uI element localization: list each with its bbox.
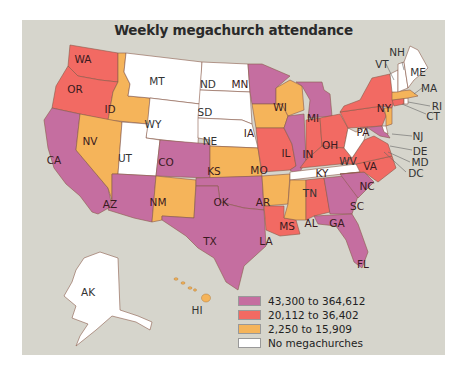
legend-item: No megachurches	[238, 336, 365, 350]
legend-item: 20,112 to 36,402	[238, 308, 365, 322]
label-NV: NV	[82, 135, 98, 147]
label-GA: GA	[329, 217, 345, 229]
leader-DE	[390, 146, 412, 150]
label-MI: MI	[307, 112, 319, 124]
legend-label: 43,300 to 364,612	[268, 295, 365, 307]
label-DC: DC	[408, 167, 423, 179]
label-UT: UT	[118, 152, 133, 164]
label-OR: OR	[67, 83, 83, 95]
label-MT: MT	[149, 75, 165, 87]
label-HI: HI	[192, 304, 203, 316]
label-VA: VA	[363, 160, 378, 172]
legend-swatch-mid	[238, 310, 261, 320]
label-TN: TN	[302, 187, 317, 199]
label-CO: CO	[158, 156, 174, 168]
legend-swatch-low	[238, 324, 261, 334]
label-WI: WI	[273, 101, 286, 113]
legend-swatch-none	[238, 338, 261, 348]
label-SC: SC	[350, 200, 364, 212]
label-NJ: NJ	[413, 130, 424, 142]
legend-swatch-high	[238, 296, 261, 306]
label-CT: CT	[426, 110, 440, 122]
legend-item: 43,300 to 364,612	[238, 294, 365, 308]
legend-label: 2,250 to 15,909	[268, 323, 352, 335]
label-NC: NC	[359, 180, 374, 192]
label-NE: NE	[203, 135, 218, 147]
label-MA: MA	[421, 82, 438, 94]
leader-NJ	[392, 134, 412, 136]
label-PA: PA	[357, 126, 371, 138]
label-SD: SD	[198, 106, 213, 118]
state-AK	[64, 252, 152, 346]
state-HI	[174, 278, 211, 302]
label-KY: KY	[316, 167, 330, 179]
label-MS: MS	[279, 220, 295, 232]
label-MN: MN	[232, 78, 249, 90]
label-LA: LA	[259, 235, 273, 247]
legend-label: No megachurches	[268, 337, 363, 349]
label-VT: VT	[375, 58, 389, 70]
label-IN: IN	[303, 148, 314, 160]
label-WV: WV	[339, 155, 357, 167]
label-AR: AR	[256, 196, 270, 208]
us-choropleth-map: WA OR CA ID NV MT WY UT AZ CO NM ND SD N…	[22, 20, 445, 355]
label-AZ: AZ	[103, 198, 117, 210]
label-MO: MO	[250, 164, 267, 176]
legend: 43,300 to 364,612 20,112 to 36,402 2,250…	[238, 294, 365, 350]
label-KS: KS	[207, 165, 221, 177]
label-AK: AK	[81, 286, 96, 298]
label-NH: NH	[389, 46, 405, 58]
label-NM: NM	[150, 196, 167, 208]
label-NY: NY	[377, 102, 392, 114]
label-ID: ID	[104, 103, 115, 115]
label-OH: OH	[322, 139, 338, 151]
label-IL: IL	[282, 147, 291, 159]
leader-CT	[402, 104, 426, 114]
label-CA: CA	[47, 154, 62, 166]
label-WA: WA	[75, 53, 93, 65]
map-panel: WA OR CA ID NV MT WY UT AZ CO NM ND SD N…	[22, 20, 445, 355]
label-FL: FL	[357, 258, 369, 270]
state-RI	[404, 98, 408, 104]
legend-label: 20,112 to 36,402	[268, 309, 359, 321]
label-TX: TX	[202, 235, 217, 247]
label-ME: ME	[410, 66, 426, 78]
legend-item: 2,250 to 15,909	[238, 322, 365, 336]
label-IA: IA	[244, 127, 255, 139]
leader-RI	[408, 102, 430, 106]
label-AL: AL	[304, 217, 317, 229]
map-title: Weekly megachurch attendance	[22, 22, 445, 38]
label-OK: OK	[213, 196, 229, 208]
label-ND: ND	[200, 78, 216, 90]
label-WY: WY	[145, 118, 162, 130]
